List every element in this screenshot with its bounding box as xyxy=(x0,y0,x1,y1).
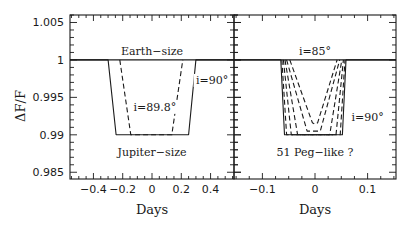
left-panel-earth-jupiter: −0.4−0.200.20.40.9850.990.99511.005Earth… xyxy=(33,15,242,196)
y-tick-label: 1.005 xyxy=(33,16,65,29)
right-x-axis-title: Days xyxy=(299,202,331,217)
x-tick-label: 0 xyxy=(149,183,156,196)
x-tick-label: 0.2 xyxy=(173,183,191,196)
x-tick-label: 0.4 xyxy=(202,183,220,196)
y-tick-label: 0.99 xyxy=(40,129,65,142)
annotation-label: 51 Peg−like ? xyxy=(277,146,354,159)
y-axis-title: ΔF/F xyxy=(13,90,28,122)
y-tick-label: 0.985 xyxy=(33,166,65,179)
annotation-label: Jupiter−size xyxy=(117,146,187,159)
x-tick-label: 0 xyxy=(312,183,319,196)
y-tick-label: 1 xyxy=(57,54,64,67)
series-line xyxy=(290,60,337,124)
x-tick-label: −0.4 xyxy=(80,183,107,196)
annotation-label: i=90° xyxy=(351,111,383,124)
series-line xyxy=(120,60,183,135)
annotation-label: i=89.8° xyxy=(134,101,177,114)
x-tick-label: −0.2 xyxy=(109,183,136,196)
left-x-axis-title: Days xyxy=(136,202,168,217)
x-tick-label: 0.1 xyxy=(359,183,377,196)
annotation-label: i=90° xyxy=(196,74,228,87)
x-tick-label: −0.1 xyxy=(249,183,276,196)
series-line xyxy=(70,60,234,135)
transit-light-curve-figure: −0.4−0.200.20.40.9850.990.99511.005Earth… xyxy=(0,0,408,229)
annotation-label: Earth−size xyxy=(121,45,183,58)
right-panel-51peg: −0.100.1i=85°i=90°51 Peg−like ? xyxy=(234,15,396,196)
annotation-label: i=85° xyxy=(299,45,331,58)
y-tick-label: 0.995 xyxy=(33,91,65,104)
